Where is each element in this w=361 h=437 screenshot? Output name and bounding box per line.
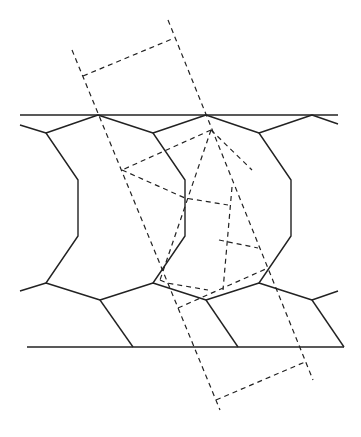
line-diagram bbox=[0, 0, 361, 437]
diagram-canvas bbox=[0, 0, 361, 437]
